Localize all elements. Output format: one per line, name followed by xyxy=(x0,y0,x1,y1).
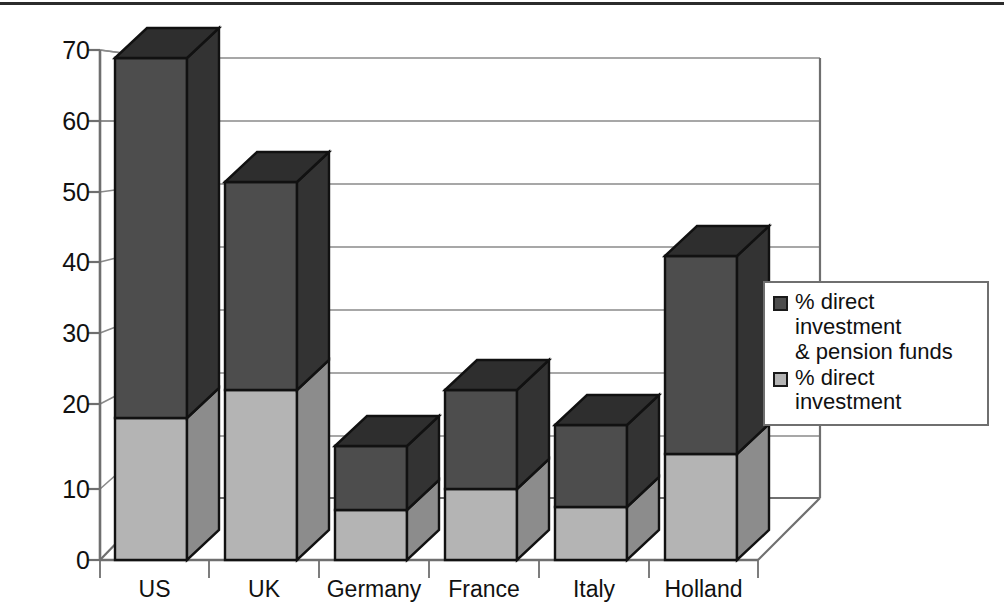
chart-legend[interactable]: % direct investment& pension funds % dir… xyxy=(763,281,989,426)
bar-segment-uk-pension-funds[interactable] xyxy=(225,182,297,390)
bar-segment-us-direct-investment[interactable] xyxy=(115,418,187,560)
y-tick-label: 70 xyxy=(24,38,90,63)
bar-group-italy[interactable] xyxy=(555,395,659,560)
legend-label-direct-investment: % direct investment xyxy=(795,366,979,416)
x-tick-label-germany: Germany xyxy=(319,578,429,601)
dark-swatch-icon xyxy=(773,296,788,311)
legend-label-line2: & pension funds xyxy=(795,339,953,364)
y-tick-label: 20 xyxy=(24,392,90,417)
legend-item-direct-investment[interactable]: % direct investment xyxy=(773,366,979,416)
bar-group-holland[interactable] xyxy=(665,226,769,560)
bar-segment-italy-pension-funds[interactable] xyxy=(555,425,627,507)
y-tick-label: 10 xyxy=(24,477,90,502)
bar-group-france[interactable] xyxy=(445,360,549,560)
bar-segment-germany-direct-investment[interactable] xyxy=(335,510,407,560)
y-tick-label: 0 xyxy=(24,548,90,573)
bar-segment-holland-pension-funds[interactable] xyxy=(665,256,737,454)
legend-label-pension-funds: % direct investment& pension funds xyxy=(795,290,979,365)
bar-side-uk-pension-funds xyxy=(297,152,329,390)
bar-group-germany[interactable] xyxy=(335,416,439,560)
bar-segment-france-pension-funds[interactable] xyxy=(445,390,517,489)
legend-label-line1: % direct investment xyxy=(795,289,901,339)
bar-group-uk[interactable] xyxy=(225,152,329,560)
bar-side-us-pension-funds xyxy=(187,28,219,418)
x-tick-label-holland: Holland xyxy=(649,578,758,601)
y-tick-label: 30 xyxy=(24,321,90,346)
x-tick-label-us: US xyxy=(100,578,209,601)
y-tick-label: 40 xyxy=(24,250,90,275)
bar-segment-us-pension-funds[interactable] xyxy=(115,58,187,418)
y-tick-label: 50 xyxy=(24,180,90,205)
x-tick-label-uk: UK xyxy=(209,578,319,601)
x-tick-label-france: France xyxy=(429,578,539,601)
bar-segment-holland-direct-investment[interactable] xyxy=(665,454,737,560)
chart-page: 70 60 50 40 30 20 10 0 US UK Germany Fra… xyxy=(0,0,1004,609)
y-axis-tick-labels: 70 60 50 40 30 20 10 0 xyxy=(0,0,90,609)
bar-segment-france-direct-investment[interactable] xyxy=(445,489,517,560)
bar-group-us[interactable] xyxy=(115,28,219,560)
x-tick-label-italy: Italy xyxy=(539,578,649,601)
light-swatch-icon xyxy=(773,372,788,387)
bar-segment-italy-direct-investment[interactable] xyxy=(555,507,627,560)
legend-item-pension-funds[interactable]: % direct investment& pension funds xyxy=(773,290,979,365)
bar-segment-germany-pension-funds[interactable] xyxy=(335,446,407,510)
y-tick-label: 60 xyxy=(24,109,90,134)
bar-side-uk-direct-investment xyxy=(297,360,329,560)
bar-segment-uk-direct-investment[interactable] xyxy=(225,390,297,560)
bar-chart: 70 60 50 40 30 20 10 0 US UK Germany Fra… xyxy=(0,0,1004,609)
